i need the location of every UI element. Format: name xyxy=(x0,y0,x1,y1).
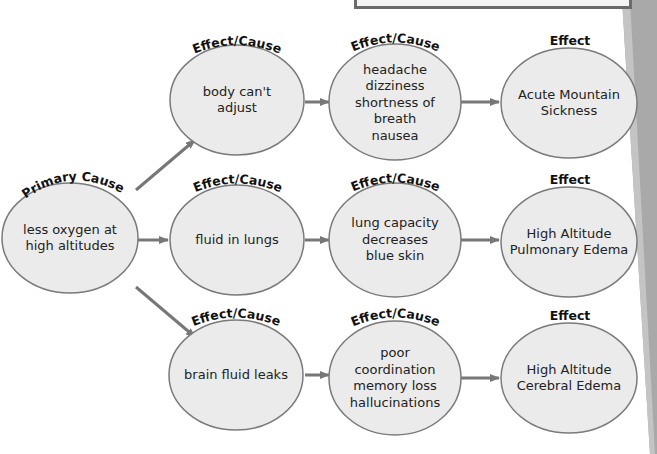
arrow-primary-to-row3 xyxy=(136,287,195,337)
row3-step2-text: poor coordination memory loss hallucinat… xyxy=(331,336,459,420)
row1-step2-text: headache dizziness shortness of breath n… xyxy=(331,56,459,150)
row2-step1-text: fluid in lungs xyxy=(175,202,299,278)
row1-effect-label: Effect xyxy=(550,33,591,48)
row1-effect-text: Acute Mountain Sickness xyxy=(503,65,635,141)
row2-effect-text: High Altitude Pulmonary Edema xyxy=(503,204,635,280)
row3-step1-text: brain fluid leaks xyxy=(172,337,300,413)
row2-step2-text: lung capacity decreases blue skin xyxy=(331,202,459,278)
row3-effect-text: High Altitude Cerebral Edema xyxy=(503,340,635,416)
cause-effect-diagram: Primary Cause Effect/Cause Effect/Cause … xyxy=(0,0,657,454)
row3-effect-label: Effect xyxy=(550,308,591,323)
row1-step1-text: body can't adjust xyxy=(175,62,299,138)
row2-effect-label: Effect xyxy=(550,172,591,187)
top-callout-box xyxy=(354,0,632,9)
arrow-primary-to-row1 xyxy=(136,140,195,190)
primary-cause-text: less oxygen at high altitudes xyxy=(6,200,134,276)
